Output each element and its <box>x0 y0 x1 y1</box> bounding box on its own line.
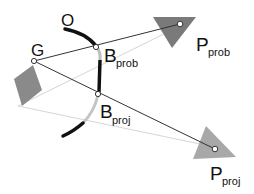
label-b-prob: B <box>104 45 117 66</box>
ray-g-to-p-proj <box>34 61 215 149</box>
label-p-prob: P <box>196 34 209 55</box>
triangle-p-proj <box>193 126 236 159</box>
label-b-prob-sub: prob <box>116 57 138 69</box>
triangle-p-prob <box>153 17 196 48</box>
label-g: G <box>31 41 44 60</box>
label-p-prob-sub: prob <box>208 46 230 58</box>
curve-o-mid <box>99 60 100 92</box>
label-p-proj: P <box>210 163 223 184</box>
label-o: O <box>61 11 74 30</box>
label-p-proj-sub: proj <box>222 175 240 187</box>
diamond-shape <box>14 65 42 106</box>
curve-o-top <box>65 29 96 46</box>
diagram-canvas: O G B prob B proj P prob P proj <box>0 0 254 194</box>
point-p-prob <box>177 21 183 27</box>
curve-o-gray-2 <box>83 95 98 123</box>
label-b-proj: B <box>100 101 113 122</box>
point-p-proj <box>212 146 218 152</box>
label-b-proj-sub: proj <box>112 114 130 126</box>
curve-o-bottom <box>63 123 83 136</box>
point-b-prob <box>93 44 98 49</box>
point-b-proj <box>95 91 100 96</box>
